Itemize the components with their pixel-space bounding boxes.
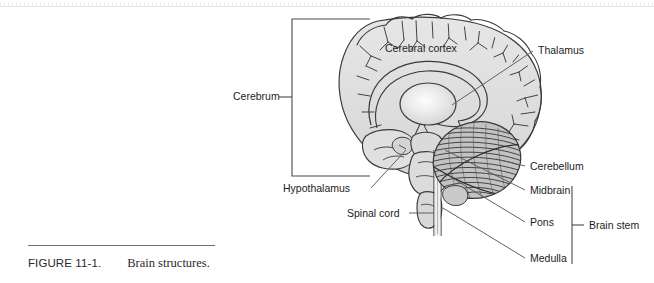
- caption-figure-title: Brain structures.: [127, 256, 210, 270]
- leader-medulla: [443, 208, 525, 258]
- label-brain-stem: Brain stem: [589, 219, 639, 231]
- brain-stem-bracket: [572, 186, 584, 264]
- flocculus-shape: [443, 186, 468, 206]
- label-midbrain: Midbrain: [530, 184, 570, 196]
- label-medulla: Medulla: [530, 252, 567, 264]
- hypothalamus-shape: [392, 137, 412, 154]
- figure-caption: FIGURE 11-1.Brain structures.: [28, 256, 210, 271]
- label-cerebellum: Cerebellum: [530, 160, 584, 172]
- temporal-lobe-shape: [362, 130, 417, 170]
- label-pons: Pons: [530, 216, 554, 228]
- label-hypothalamus: Hypothalamus: [283, 182, 350, 194]
- label-spinal-cord: Spinal cord: [347, 207, 400, 219]
- caption-rule: [28, 245, 215, 246]
- label-thalamus: Thalamus: [538, 44, 584, 56]
- label-cerebral-cortex: Cerebral cortex: [385, 42, 458, 54]
- figure-page: Cerebrum: [0, 0, 654, 283]
- caption-figure-number: FIGURE 11-1.: [28, 257, 101, 269]
- brain-structures-figure: Cerebrum: [0, 0, 654, 283]
- label-cerebrum: Cerebrum: [233, 90, 280, 102]
